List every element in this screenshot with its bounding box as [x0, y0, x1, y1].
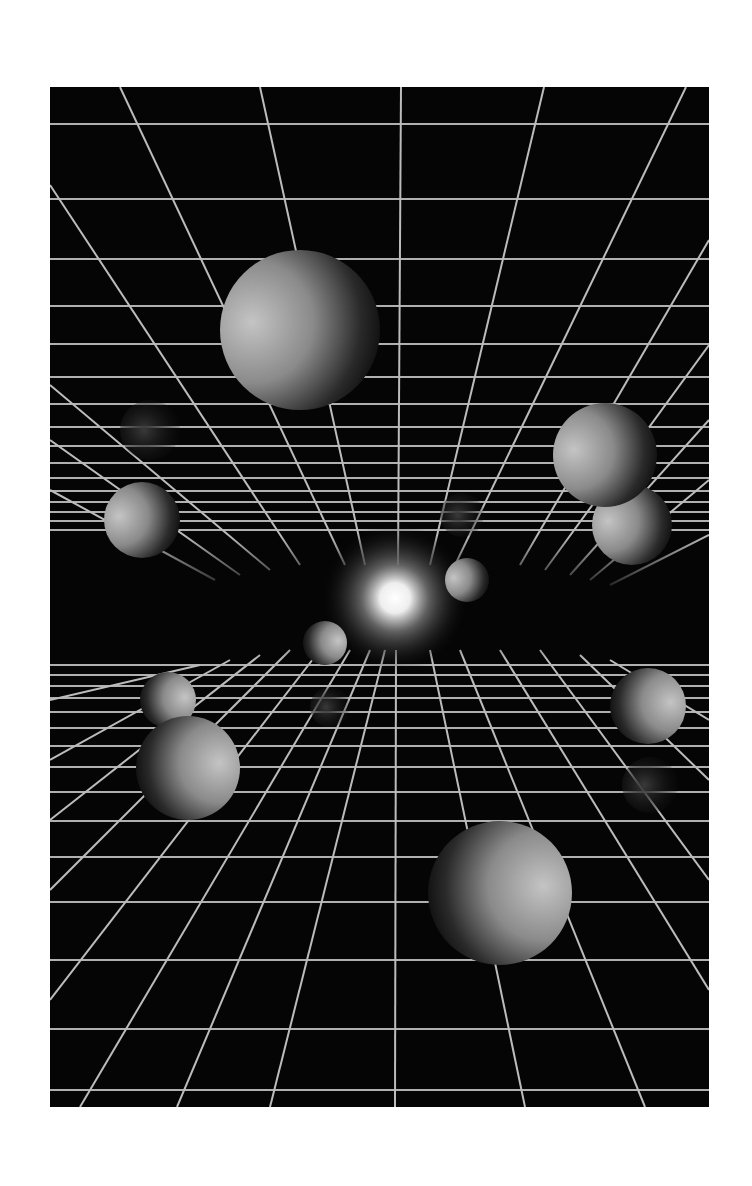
- sphere-right-upper: [553, 403, 657, 507]
- sphere-center-right-small: [445, 558, 489, 602]
- sphere-left-mid: [104, 482, 180, 558]
- sphere-center-left-small: [303, 621, 347, 665]
- sphere-bottom-large: [428, 821, 572, 965]
- sphere-right-mid: [610, 668, 686, 744]
- artwork-canvas: [0, 0, 752, 1186]
- sphere-top-large: [220, 250, 380, 410]
- sphere-left-lower-large: [136, 716, 240, 820]
